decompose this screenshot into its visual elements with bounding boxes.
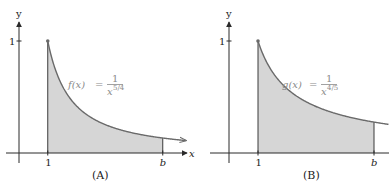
function-name-g: g(x) — [282, 79, 302, 90]
x-axis-label-a: x — [189, 148, 195, 159]
function-name-f: f(x) — [67, 79, 85, 90]
equals-sign-g: = — [309, 79, 317, 90]
numerator-g: 1 — [326, 73, 332, 84]
x-tick-label-b-b: b — [371, 157, 377, 168]
start-point-b — [256, 39, 260, 43]
x-tick-label-b-a: b — [160, 157, 166, 168]
y-axis-label-a: y — [15, 8, 22, 19]
exponent-f: 5/4 — [113, 84, 125, 92]
shaded-region-b — [258, 41, 374, 153]
function-label-f: f(x) = 1 x 5/4 — [67, 73, 125, 97]
caption-a: (A) — [92, 169, 109, 182]
y-axis-label-b: y — [225, 8, 232, 19]
caption-b: (B) — [303, 169, 320, 182]
figure: y x 1 1 b f(x) = 1 x 5/4 (A) y 1 1 b g(x… — [0, 0, 389, 186]
start-point-a — [46, 39, 50, 43]
panel-a: y x 1 1 b f(x) = 1 x 5/4 (A) — [6, 8, 195, 182]
panel-b: y 1 1 b g(x) = 1 x 4/5 (B) — [210, 8, 389, 182]
x-tick-label-1-b: 1 — [256, 157, 262, 168]
equals-sign-f: = — [95, 79, 103, 90]
numerator-f: 1 — [112, 73, 118, 84]
y-tick-label-1-a: 1 — [9, 36, 15, 47]
x-tick-label-1-a: 1 — [45, 157, 51, 168]
shaded-region-a — [48, 41, 163, 153]
exponent-g: 4/5 — [327, 84, 338, 92]
y-tick-label-1-b: 1 — [219, 36, 225, 47]
